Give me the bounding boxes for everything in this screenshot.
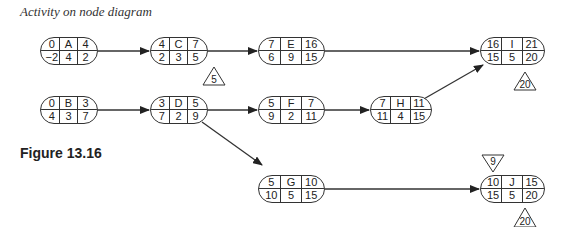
node-b-dur: 3 <box>60 110 79 123</box>
node-d-id: D <box>170 97 189 110</box>
node-g-dur: 5 <box>281 189 303 202</box>
node-b[interactable]: 0 B 3 4 3 7 <box>40 96 98 124</box>
triangle-j-top-label-box: 9 <box>482 155 504 175</box>
node-j-id: J <box>502 176 523 189</box>
triangle-j-top-label: 9 <box>482 156 504 167</box>
node-i-es: 16 <box>481 38 502 51</box>
edge-h-i <box>422 65 483 100</box>
node-a[interactable]: 0 A 4 −2 4 2 <box>40 37 98 65</box>
node-d-es: 3 <box>151 97 170 110</box>
triangle-c-label-box: 5 <box>203 67 225 87</box>
node-f[interactable]: 5 F 7 9 2 11 <box>258 96 325 124</box>
triangle-c-label: 5 <box>203 74 225 85</box>
node-c[interactable]: 4 C 7 2 3 5 <box>150 37 208 65</box>
node-e-id: E <box>281 38 303 51</box>
node-f-es: 5 <box>259 97 281 110</box>
node-i[interactable]: 16 I 21 15 5 20 <box>480 37 545 65</box>
node-g-es: 5 <box>259 176 281 189</box>
node-h-dur: 4 <box>391 110 411 123</box>
node-a-es: 0 <box>41 38 60 51</box>
node-b-id: B <box>60 97 79 110</box>
triangle-j-bottom-label-box: 20 <box>514 208 536 227</box>
node-f-dur: 2 <box>281 110 303 123</box>
node-e-dur: 9 <box>281 51 303 64</box>
node-g[interactable]: 5 G 10 10 5 15 <box>258 175 325 203</box>
node-c-es: 4 <box>151 38 170 51</box>
triangle-i-label-box: 20 <box>514 72 536 92</box>
node-a-id: A <box>60 38 79 51</box>
node-e-es: 7 <box>259 38 281 51</box>
node-h-id: H <box>391 97 411 110</box>
node-g-id: G <box>281 176 303 189</box>
node-c-id: C <box>170 38 189 51</box>
node-i-id: I <box>502 38 523 51</box>
node-f-id: F <box>281 97 303 110</box>
triangle-i-label: 20 <box>514 79 536 90</box>
node-e[interactable]: 7 E 16 6 9 15 <box>258 37 325 65</box>
node-i-dur: 5 <box>502 51 523 64</box>
node-j-dur: 5 <box>502 189 523 202</box>
node-d-dur: 2 <box>170 110 189 123</box>
node-d[interactable]: 3 D 5 7 2 9 <box>150 96 208 124</box>
node-h-es: 7 <box>371 97 391 110</box>
node-h[interactable]: 7 H 11 11 4 15 <box>370 96 432 124</box>
node-j[interactable]: 10 J 15 15 5 20 <box>480 175 545 203</box>
node-a-dur: 4 <box>60 51 79 64</box>
edge-d-g <box>202 122 262 165</box>
node-b-es: 0 <box>41 97 60 110</box>
node-j-es: 10 <box>481 176 502 189</box>
node-c-dur: 3 <box>170 51 189 64</box>
triangle-j-bottom-label: 20 <box>514 216 536 227</box>
